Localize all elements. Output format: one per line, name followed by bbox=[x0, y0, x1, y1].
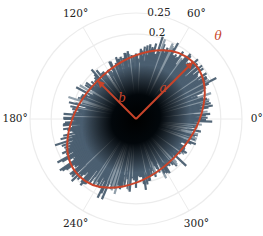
angle-tick-300: 300° bbox=[184, 217, 209, 229]
angle-tick-60: 60° bbox=[187, 7, 206, 19]
angle-tick-240: 240° bbox=[63, 217, 88, 229]
angle-tick-180: 180° bbox=[3, 112, 28, 124]
polar-plot-area: 0°60°120°180°240°300°0.20.25abθ bbox=[0, 0, 263, 236]
angle-tick-0: 0° bbox=[251, 112, 263, 124]
radial-tick-0.2: 0.2 bbox=[149, 26, 166, 38]
label-theta: θ bbox=[214, 29, 222, 43]
label-a: a bbox=[159, 81, 166, 95]
angle-tick-120: 120° bbox=[63, 7, 88, 19]
radial-tick-0.25: 0.25 bbox=[147, 6, 170, 18]
polar-chart: 0°60°120°180°240°300°0.20.25abθ bbox=[0, 0, 263, 236]
label-b: b bbox=[118, 91, 126, 105]
